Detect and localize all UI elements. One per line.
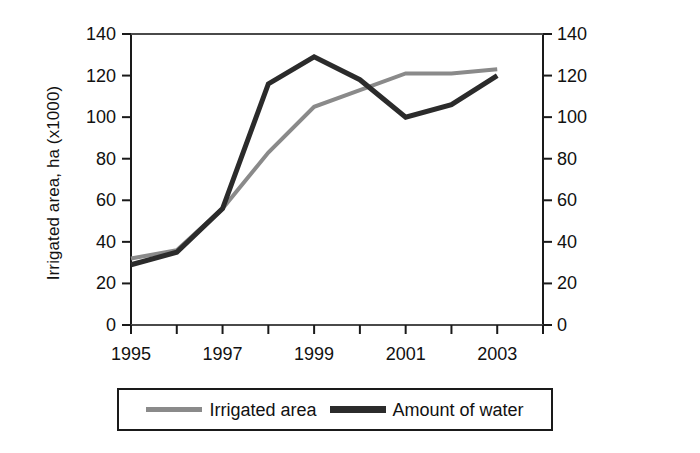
x-axis-ticks [131, 325, 543, 334]
legend-label-amount-of-water: Amount of water [393, 401, 524, 419]
y-axis-right-tick-label: 20 [557, 274, 603, 292]
y-axis-right-tick-label: 120 [557, 67, 603, 85]
chart-figure: Irrigated area, ha (x1000) Amount of wat… [0, 0, 700, 453]
y-axis-right-tick-label: 80 [557, 150, 603, 168]
y-axis-right-tick-label: 0 [557, 316, 603, 334]
y-axis-right-tick-label: 60 [557, 191, 603, 209]
x-axis-tick-label: 2001 [371, 345, 441, 363]
x-axis-tick-label: 1995 [96, 345, 166, 363]
legend-item-irrigated-area: Irrigated area [146, 401, 316, 419]
y-axis-left-tick-label: 0 [70, 316, 116, 334]
x-axis-tick-label: 1999 [279, 345, 349, 363]
y-axis-left-ticks [122, 34, 131, 325]
chart-legend: Irrigated area Amount of water [117, 388, 553, 431]
y-axis-left-tick-label: 60 [70, 191, 116, 209]
y-axis-left-tick-label: 40 [70, 233, 116, 251]
y-axis-left-tick-label: 20 [70, 274, 116, 292]
data-series-layer [131, 57, 497, 265]
y-axis-right-ticks [543, 34, 552, 325]
y-axis-left-tick-label: 120 [70, 67, 116, 85]
legend-swatch-irrigated-area [146, 407, 202, 412]
y-axis-left-tick-label: 140 [70, 25, 116, 43]
y-axis-left-tick-label: 80 [70, 150, 116, 168]
legend-swatch-amount-of-water [330, 406, 386, 413]
y-axis-right-tick-label: 40 [557, 233, 603, 251]
x-axis-tick-label: 2003 [462, 345, 532, 363]
series-line-amount-of-water [131, 57, 497, 265]
x-axis-tick-label: 1997 [188, 345, 258, 363]
legend-label-irrigated-area: Irrigated area [209, 401, 316, 419]
y-axis-right-tick-label: 140 [557, 25, 603, 43]
y-axis-left-tick-label: 100 [70, 108, 116, 126]
series-line-irrigated-area [131, 69, 497, 258]
y-axis-right-tick-label: 100 [557, 108, 603, 126]
legend-item-amount-of-water: Amount of water [330, 401, 524, 419]
